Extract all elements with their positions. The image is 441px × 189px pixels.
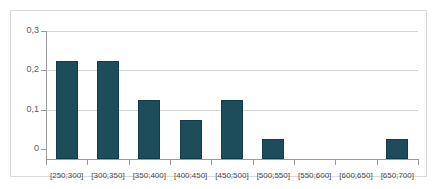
x-axis-tick-mark: [87, 160, 88, 165]
x-axis-tick-label: [500;550]: [253, 171, 294, 181]
x-axis-tick-mark: [46, 160, 47, 165]
y-axis-tick-label: 0,2: [26, 65, 39, 74]
y-axis-tick-label: 0,3: [26, 26, 39, 35]
bar[interactable]: [221, 100, 243, 159]
x-axis-tick-label: [250;300]: [46, 171, 87, 181]
y-axis-tick-labels: 0,30,20,10: [11, 11, 39, 189]
x-axis-tick-mark: [129, 160, 130, 165]
x-axis-line: [46, 159, 419, 160]
x-axis-tick-mark: [377, 160, 378, 165]
bar[interactable]: [56, 61, 78, 159]
bar[interactable]: [386, 139, 408, 159]
x-axis-tick-mark: [294, 160, 295, 165]
chart-frame: 0,30,20,10 [250;300][300;350][350;400][4…: [10, 10, 427, 177]
bar[interactable]: [97, 61, 119, 159]
y-axis-tick-label: 0,1: [26, 105, 39, 114]
x-axis-tick-label: [400;450]: [170, 171, 211, 181]
x-axis-tick-label: [650;700]: [377, 171, 418, 181]
x-axis-tick-label: [300;350]: [87, 171, 128, 181]
y-axis-tick-label: 0: [34, 144, 39, 153]
x-axis-tick-label: [550;600]: [294, 171, 335, 181]
x-axis-tick-label: [450;500]: [211, 171, 252, 181]
x-axis-tick-mark: [211, 160, 212, 165]
x-axis-tick-label: [600;650]: [335, 171, 376, 181]
bar-series: [46, 31, 419, 159]
x-axis-tick-mark: [253, 160, 254, 165]
x-axis-tick-mark: [335, 160, 336, 165]
x-axis-tick-mark: [170, 160, 171, 165]
bar[interactable]: [180, 120, 202, 159]
x-axis-tick-label: [350;400]: [129, 171, 170, 181]
bar[interactable]: [262, 139, 284, 159]
x-axis-tick-mark: [418, 160, 419, 165]
bar[interactable]: [138, 100, 160, 159]
